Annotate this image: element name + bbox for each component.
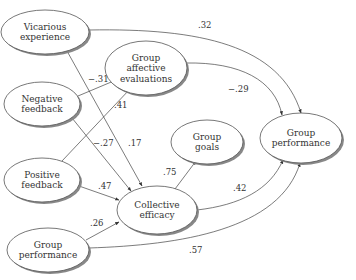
node-negative: Negativefeedback [4,82,82,128]
node-perf_bottom: Groupperformance [7,228,91,274]
path-diagram: .32.17−.31−.27.41.47−.29.75.42.26.57 Vic… [0,0,356,280]
node-label: performance [19,250,78,260]
node-label: Group [132,53,161,63]
edge-coefficient-label: .17 [128,138,142,148]
node-label: Vicarious [23,22,67,32]
node-vicarious: Vicariousexperience [1,10,91,56]
diagram-svg: .32.17−.31−.27.41.47−.29.75.42.26.57 Vic… [0,0,356,280]
node-label: evaluations [120,74,173,84]
edge-coefficient-label: .47 [98,181,112,191]
node-efficacy: Collectiveefficacy [117,186,199,236]
node-label: affective [126,63,165,73]
node-label: Positive [24,170,60,180]
node-label: Negative [21,94,62,104]
node-label: Collective [134,200,179,210]
node-label: feedback [21,180,63,190]
node-positive: Positivefeedback [4,158,82,204]
node-label: experience [20,32,70,42]
node-label: Group [34,240,63,250]
edge-coefficient-label: .26 [90,218,104,228]
edge-efficacy-to-goals [175,161,196,189]
edge-coefficient-label: .75 [163,167,177,177]
nodes: VicariousexperienceGroupaffectiveevaluat… [1,10,344,274]
edge-coefficient-label: .42 [233,183,247,193]
node-label: feedback [21,104,63,114]
node-label: goals [195,142,219,152]
edge-coefficient-label: .32 [198,20,212,30]
node-label: performance [272,138,331,148]
node-label: Group [193,132,222,142]
edge-coefficient-label: .41 [114,100,128,110]
node-perf_right: Groupperformance [260,113,344,165]
node-label: efficacy [139,210,175,220]
edge-coefficient-label: −.31 [88,74,109,84]
edge-coefficient-label: −.27 [93,138,114,148]
edge-coefficient-label: −.29 [228,84,249,94]
node-label: Group [287,128,316,138]
node-affective: Groupaffectiveevaluations [105,41,189,97]
node-goals: Groupgoals [171,120,245,166]
edge-coefficient-label: .57 [189,245,203,255]
